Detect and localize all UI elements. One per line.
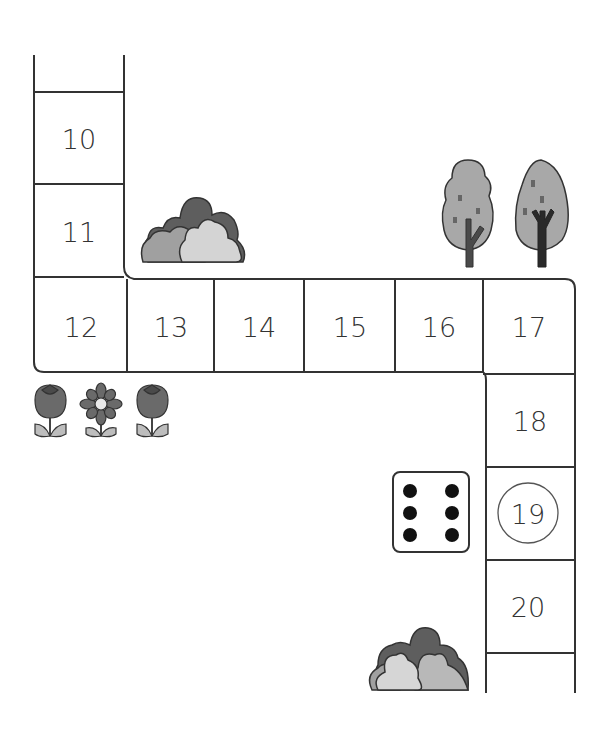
board-cell-15[interactable]: 15 (333, 312, 367, 343)
board-cell-17[interactable]: 17 (512, 312, 546, 343)
board-cell-12[interactable]: 12 (64, 312, 98, 343)
path-outline (34, 55, 575, 693)
daisy-icon (80, 383, 122, 437)
cell-number: 16 (422, 312, 456, 343)
tulip-icon (137, 385, 168, 437)
board-cell-19[interactable]: 19 (498, 483, 558, 543)
board-cell-10[interactable]: 10 (62, 124, 96, 155)
cell-number: 12 (64, 312, 98, 343)
board-cell-16[interactable]: 16 (422, 312, 456, 343)
bush-icon (370, 628, 469, 690)
game-board: 10 11 12 13 14 15 16 17 18 19 20 (0, 0, 610, 746)
bush-icon (142, 198, 245, 262)
cell-number: 17 (512, 312, 546, 343)
cell-number: 20 (511, 592, 545, 623)
die-six[interactable] (393, 472, 469, 552)
cell-number: 10 (62, 124, 96, 155)
board-cell-20[interactable]: 20 (511, 592, 545, 623)
cell-number: 13 (154, 312, 188, 343)
board-cell-11[interactable]: 11 (62, 217, 96, 248)
board-cell-13[interactable]: 13 (154, 312, 188, 343)
board-cell-14[interactable]: 14 (242, 312, 276, 343)
cell-number: 11 (62, 217, 96, 248)
cell-number: 19 (511, 499, 545, 530)
cell-number: 18 (513, 406, 547, 437)
tulip-icon (35, 385, 66, 437)
tree-icon (516, 160, 569, 267)
board-cell-18[interactable]: 18 (513, 406, 547, 437)
tree-icon (442, 160, 493, 267)
cell-number: 15 (333, 312, 367, 343)
cell-number: 14 (242, 312, 276, 343)
